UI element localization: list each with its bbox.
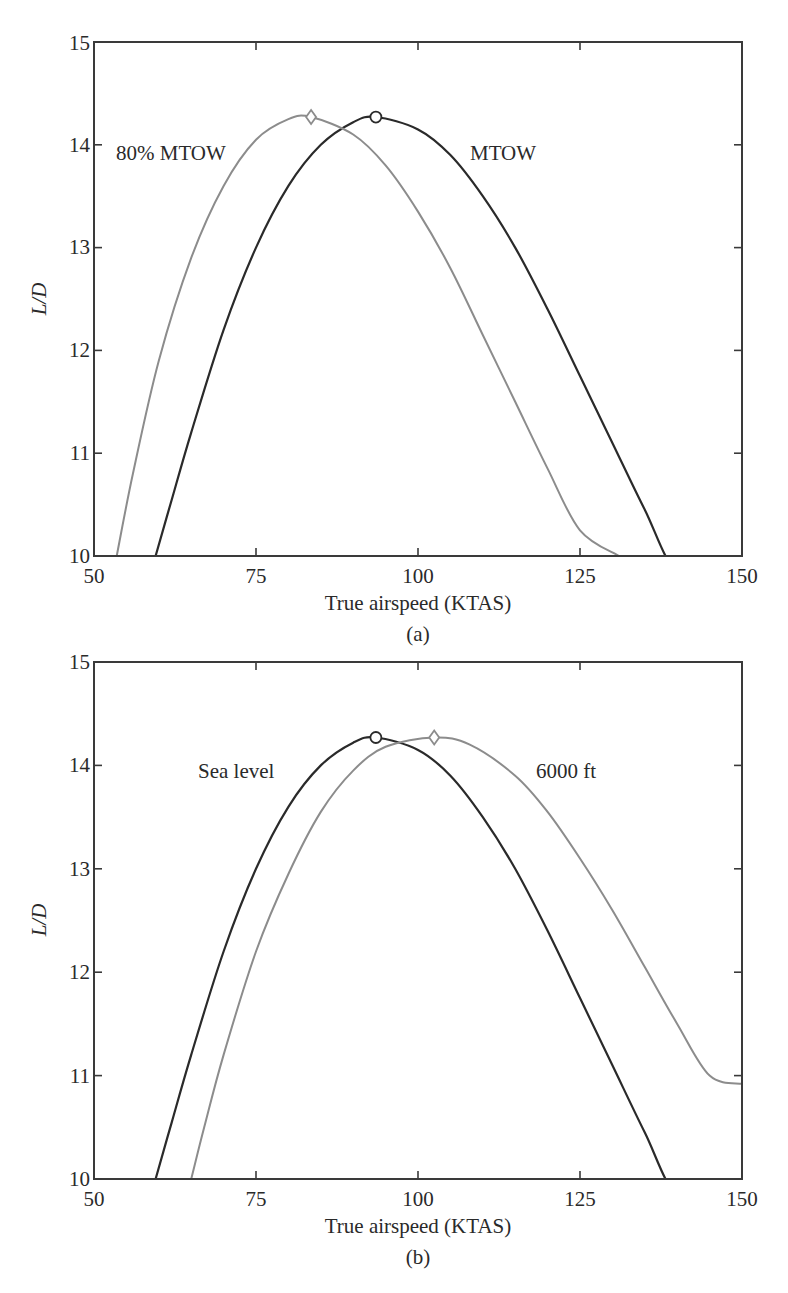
panel-b-curves [156,730,742,1196]
ytick-label: 11 [70,441,90,465]
panel-b-ytick-labels: 10 11 12 13 14 15 [69,650,91,1191]
panel-a-curves [117,110,716,573]
ytick-label: 12 [69,338,90,362]
max-marker-diamond-icon [306,110,316,124]
panel-a-frame [94,42,742,556]
panel-a-xtick-labels: 50 75 100 125 150 [84,564,758,588]
xtick-label: 150 [726,1187,758,1211]
xtick-label: 75 [246,1187,267,1211]
xtick-label: 75 [246,564,267,588]
panel-a-ticks [94,42,742,556]
ytick-label: 15 [69,650,90,674]
ytick-label: 11 [70,1064,90,1088]
xtick-label: 100 [402,1187,434,1211]
panel-a-ylabel: L/D [27,283,51,317]
figure: 50 75 100 125 150 10 11 12 13 14 15 True… [0,0,788,1293]
max-marker-circle-icon [370,732,381,743]
annotation-sea-level: Sea level [198,759,275,783]
panel-a: 50 75 100 125 150 10 11 12 13 14 15 True… [27,31,758,646]
ytick-label: 13 [69,235,90,259]
ytick-label: 12 [69,960,90,984]
panel-a-xlabel: True airspeed (KTAS) [325,591,512,615]
annotation-80-mtow: 80% MTOW [116,141,226,165]
panel-b-caption: (b) [406,1245,431,1269]
annotation-mtow: MTOW [470,141,536,165]
series-line-80-mtow [117,116,619,556]
xtick-label: 125 [564,1187,596,1211]
xtick-label: 125 [564,564,596,588]
ytick-label: 10 [69,544,90,568]
panel-b-ylabel: L/D [27,904,51,938]
annotation-6000-ft: 6000 ft [536,759,596,783]
panel-b-xtick-labels: 50 75 100 125 150 [84,1187,758,1211]
panel-a-caption: (a) [406,622,429,646]
xtick-label: 150 [726,564,758,588]
panel-b-xlabel: True airspeed (KTAS) [325,1214,512,1238]
ytick-label: 14 [69,133,91,157]
series-line-6000-ft [191,737,742,1179]
max-marker-diamond-icon [429,730,439,744]
ytick-label: 15 [69,31,90,55]
panel-a-ytick-labels: 10 11 12 13 14 15 [69,31,91,568]
series-line-sea-level [156,737,717,1196]
xtick-label: 100 [402,564,434,588]
ytick-label: 13 [69,857,90,881]
ytick-label: 10 [69,1167,90,1191]
panel-b: 50 75 100 125 150 10 11 12 13 14 15 True… [27,650,758,1269]
ytick-label: 14 [69,753,91,777]
max-marker-circle-icon [370,112,381,123]
series-line-mtow [156,117,717,573]
